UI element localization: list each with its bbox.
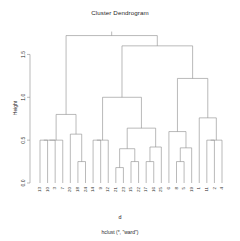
chart-subtitle: hclust (*, "ward") [0, 229, 240, 235]
leaf-label: 15 [128, 186, 133, 191]
dendrogram-tree [40, 32, 222, 183]
leaf-label: 18 [75, 186, 80, 191]
leaf-labels: 1310372018241491221231522171625685191112… [37, 186, 224, 191]
leaf-label: 12 [105, 186, 110, 191]
svg-text:0.0: 0.0 [20, 179, 26, 186]
leaf-label: 4 [219, 186, 224, 189]
leaf-label: 16 [151, 186, 156, 191]
leaf-label: 25 [158, 186, 163, 191]
leaf-label: 24 [83, 186, 88, 191]
dendrogram-canvas: 0.00.51.01.5 131037201824149122123152217… [0, 0, 240, 241]
leaf-label: 17 [143, 186, 148, 191]
leaf-label: 2 [212, 186, 217, 189]
leaf-label: 19 [189, 186, 194, 191]
leaf-label: 10 [45, 186, 50, 191]
leaf-label: 6 [166, 186, 171, 189]
leaf-label: 9 [98, 186, 103, 189]
leaf-label: 13 [37, 186, 42, 191]
leaf-label: 5 [181, 186, 186, 189]
leaf-label: 11 [204, 186, 209, 191]
svg-text:0.5: 0.5 [20, 136, 26, 143]
svg-text:1.5: 1.5 [20, 51, 26, 58]
cluster-dendrogram-plot: Cluster Dendrogram Height 0.00.51.01.5 1… [0, 0, 240, 241]
leaf-label: 23 [121, 186, 126, 191]
leaf-label: 7 [60, 186, 65, 189]
leaf-label: 20 [67, 186, 72, 191]
leaf-label: 3 [52, 186, 57, 189]
y-axis: 0.00.51.01.5 [20, 51, 30, 187]
leaf-label: 21 [113, 186, 118, 191]
svg-text:1.0: 1.0 [20, 94, 26, 101]
leaf-label: 1 [196, 186, 201, 189]
leaf-label: 22 [136, 186, 141, 191]
x-axis-label: d [0, 214, 240, 220]
leaf-label: 8 [174, 186, 179, 189]
leaf-label: 14 [90, 186, 95, 191]
